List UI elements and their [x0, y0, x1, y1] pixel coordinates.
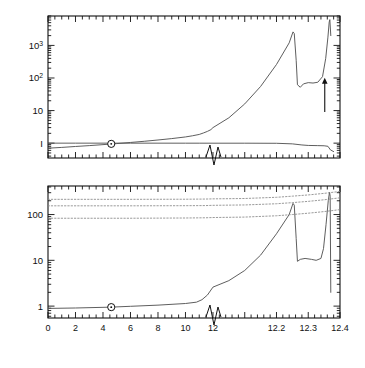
- y-tick-label: 1: [38, 301, 43, 312]
- bottom-curves: [48, 191, 340, 308]
- mass-curve: [48, 143, 334, 151]
- sun-symbol-dot: [110, 306, 112, 308]
- x-tick-label: 12.3: [299, 323, 317, 333]
- y-tick-label: 103: [29, 39, 44, 51]
- x-tick-label: 2: [73, 323, 78, 333]
- sun-symbol-dot: [110, 143, 112, 145]
- top-panel-frame: [48, 16, 340, 158]
- x-tick-label: 10: [180, 323, 190, 333]
- luminosity-curve: [48, 20, 331, 149]
- y-tick-label: 10: [32, 105, 43, 116]
- y-tick-label: 102: [29, 72, 44, 84]
- x-tick-label: 8: [155, 323, 160, 333]
- axis-break-zigzag: [206, 305, 221, 325]
- sun-radius-curve: [48, 192, 331, 308]
- x-tick-label: 6: [128, 323, 133, 333]
- orbit-line-earth: [48, 191, 340, 199]
- orbit-line-mercury: [48, 210, 340, 219]
- asymptotic-arrow-head: [322, 78, 328, 84]
- y-tick-label: 100: [27, 209, 43, 220]
- x-tick-label: 12.4: [331, 323, 349, 333]
- stellar-evolution-figure: 02468101212.212.312.4I10102103110100: [0, 0, 365, 368]
- y-tick-label: I: [40, 138, 43, 149]
- y-tick-label: 10: [32, 255, 43, 266]
- x-tick-label: 0: [45, 323, 50, 333]
- x-tick-label: 4: [100, 323, 105, 333]
- x-tick-label: 12.2: [268, 323, 286, 333]
- axis-break-zigzag: [206, 145, 221, 165]
- x-tick-label: 12: [208, 323, 218, 333]
- top-curves: [48, 20, 334, 152]
